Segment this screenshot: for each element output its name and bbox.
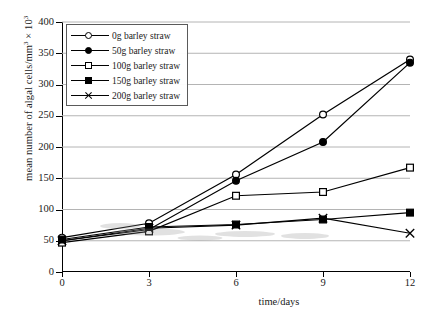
x-axis-tick-label: 3 <box>146 277 151 288</box>
x-axis-tick-mark <box>236 272 237 277</box>
y-axis-tick-label: 150 <box>20 173 54 183</box>
y-axis-tick-label: 200 <box>20 142 54 152</box>
x-axis-title-text: time/days <box>259 296 300 307</box>
y-axis-tick-label: 50 <box>20 235 54 245</box>
legend-marker-sample <box>71 59 109 73</box>
legend-item-label: 150g barley straw <box>109 76 180 86</box>
y-axis-tick-label: 250 <box>20 110 54 120</box>
x-axis-tick-label: 9 <box>320 277 325 288</box>
y-axis-tick-label: 300 <box>20 79 54 89</box>
x-axis-tick-label: 0 <box>59 277 64 288</box>
x-axis-title: time/days <box>0 296 434 307</box>
legend-marker-sample <box>71 74 109 88</box>
legend-item-label: 0g barley straw <box>109 31 171 41</box>
x-axis-tick-label: 6 <box>233 277 238 288</box>
x-axis-tick-label: 12 <box>405 277 416 288</box>
y-axis-tick-label: 400 <box>20 17 54 27</box>
chart-legend: 0g barley straw50g barley straw100g barl… <box>66 24 188 106</box>
legend-item: 200g barley straw <box>71 88 183 103</box>
legend-marker-sample <box>71 29 109 43</box>
legend-item-label: 100g barley straw <box>109 61 180 71</box>
x-axis-tick-mark <box>410 272 411 277</box>
open-square-marker-icon <box>85 62 92 69</box>
filled-circle-marker-icon <box>85 47 92 54</box>
legend-marker-sample <box>71 89 109 103</box>
legend-item: 50g barley straw <box>71 43 183 58</box>
legend-item-label: 50g barley straw <box>109 46 175 56</box>
legend-item: 150g barley straw <box>71 73 183 88</box>
cross-marker-icon <box>84 91 93 100</box>
legend-marker-sample <box>71 44 109 58</box>
x-axis-tick-mark <box>149 272 150 277</box>
algal-growth-line-chart: mean number of algal cells/mm3 × 103 050… <box>0 0 434 319</box>
filled-square-marker-icon <box>85 77 92 84</box>
legend-item: 0g barley straw <box>71 28 183 43</box>
y-axis-tick-label: 350 <box>20 48 54 58</box>
y-axis-tick-label: 0 <box>20 267 54 277</box>
x-axis-tick-mark <box>323 272 324 277</box>
y-axis-tick-label: 100 <box>20 204 54 214</box>
open-circle-marker-icon <box>85 32 92 39</box>
legend-item-label: 200g barley straw <box>109 91 180 101</box>
legend-item: 100g barley straw <box>71 58 183 73</box>
x-axis-tick-mark <box>62 272 63 277</box>
